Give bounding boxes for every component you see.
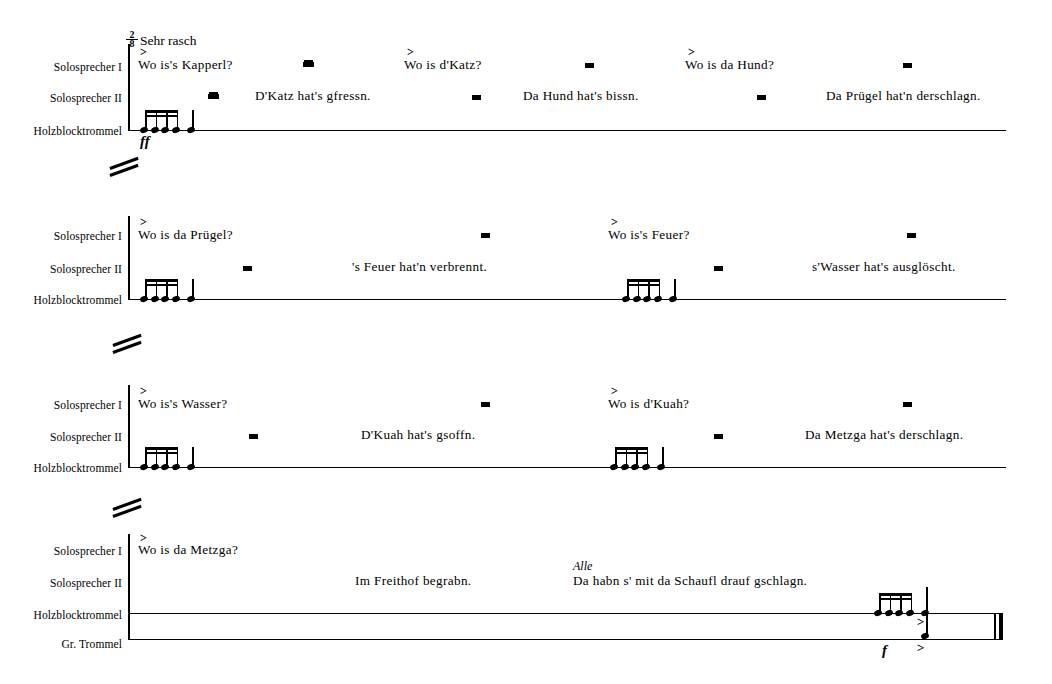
beam	[145, 447, 178, 450]
lyric-speaker2-2: Da habn s' mit da Schaufl drauf gschlagn…	[573, 574, 807, 587]
staff-line-woodblock	[128, 130, 1006, 131]
note-group-woodblock	[610, 447, 666, 477]
staff-label-holzblocktrommel: Holzblocktrommel	[34, 463, 122, 475]
lyric-speaker2-1: Im Freithof begrabn.	[355, 574, 472, 587]
final-barline-thin	[994, 613, 996, 640]
note-head	[186, 463, 195, 471]
staff-label-solosprecher-2: Solosprecher II	[50, 432, 122, 444]
beam	[145, 284, 178, 287]
note-head	[894, 609, 903, 617]
note-head	[150, 126, 159, 134]
staff-label-solosprecher-1: Solosprecher I	[54, 546, 122, 558]
lyric-speaker2-1: D'Katz hat's gfressn.	[255, 89, 371, 102]
system-barline	[128, 44, 130, 131]
rest-eighth	[907, 233, 916, 238]
lyric-speaker2-2: s'Wasser hat's ausglöscht.	[812, 260, 956, 273]
rest-quarter	[208, 94, 219, 99]
system-2: Solosprecher I Solosprecher II Holzblock…	[0, 172, 1052, 347]
rest-eighth	[714, 266, 723, 271]
rest-eighth	[585, 63, 594, 68]
staff-line-woodblock	[128, 613, 1003, 614]
lyric-speaker1-1: Wo is da Metzga?	[138, 543, 238, 556]
musical-score: Solosprecher I Solosprecher II Holzblock…	[0, 0, 1052, 684]
note-head	[139, 295, 148, 303]
staff-label-solosprecher-1: Solosprecher I	[54, 231, 122, 243]
note-head	[186, 126, 195, 134]
system-barline	[128, 534, 130, 639]
system-barline	[128, 216, 130, 300]
staff-label-solosprecher-2: Solosprecher II	[50, 578, 122, 590]
staff-label-holzblocktrommel: Holzblocktrommel	[34, 126, 122, 138]
beam	[879, 593, 912, 596]
lyric-speaker2-2: Da Metzga hat's derschlagn.	[805, 428, 963, 441]
note-head	[150, 463, 159, 471]
lyric-speaker2-1: 's Feuer hat'n verbrennt.	[352, 260, 487, 273]
beam	[627, 279, 660, 282]
note-head	[139, 463, 148, 471]
time-signature: 2 8	[126, 31, 138, 48]
lyric-speaker2-3: Da Prügel hat'n derschlagn.	[826, 89, 981, 102]
rest-eighth	[757, 95, 766, 100]
note-group-woodblock	[622, 279, 678, 309]
lyric-speaker1-2: Wo is d'Kuah?	[608, 397, 689, 410]
time-signature-denominator: 8	[126, 39, 138, 48]
staff-label-gr-trommel: Gr. Trommel	[61, 639, 122, 651]
rest-eighth	[243, 266, 252, 271]
note-head	[653, 295, 662, 303]
lyric-speaker1-2: Wo is's Feuer?	[608, 228, 690, 241]
lyric-speaker2-2: Da Hund hat's bissn.	[523, 89, 639, 102]
note-head	[632, 295, 641, 303]
rest-eighth	[481, 233, 490, 238]
system-4: Solosprecher I Solosprecher II Holzblock…	[0, 510, 1052, 684]
rest-eighth	[903, 402, 912, 407]
accent-icon: >	[917, 615, 924, 628]
note-head	[884, 609, 893, 617]
rest-eighth	[472, 95, 481, 100]
beam	[615, 452, 648, 455]
note-head	[609, 463, 618, 471]
accent-icon: >	[917, 641, 924, 654]
tempo-marking: Sehr rasch	[140, 33, 197, 49]
staff-label-holzblocktrommel: Holzblocktrommel	[34, 295, 122, 307]
beam	[145, 110, 178, 113]
note-head	[641, 463, 650, 471]
note-head	[160, 463, 169, 471]
staff-label-solosprecher-2: Solosprecher II	[50, 93, 122, 105]
beam	[879, 598, 912, 601]
staff-line-woodblock	[128, 299, 1006, 300]
staff-label-solosprecher-2: Solosprecher II	[50, 264, 122, 276]
note-head	[642, 295, 651, 303]
staff-label-holzblocktrommel: Holzblocktrommel	[34, 610, 122, 622]
rest-quarter	[303, 62, 314, 67]
final-barline-thick	[999, 613, 1003, 640]
system-3: Solosprecher I Solosprecher II Holzblock…	[0, 340, 1052, 515]
note-head	[620, 463, 629, 471]
note-head	[171, 463, 180, 471]
note-head	[656, 463, 665, 471]
lyric-speaker1-2: Wo is d'Katz?	[404, 58, 482, 71]
lyric-speaker1-1: Wo is da Prügel?	[138, 228, 233, 241]
note-head	[630, 463, 639, 471]
system-barline	[128, 385, 130, 468]
note-group-woodblock	[140, 447, 196, 477]
rest-eighth	[249, 434, 258, 439]
rest-eighth	[714, 434, 723, 439]
note-head	[621, 295, 630, 303]
beam	[145, 452, 178, 455]
dynamic-ff: ff	[140, 134, 150, 149]
staff-label-solosprecher-1: Solosprecher I	[54, 400, 122, 412]
rest-eighth	[903, 63, 912, 68]
dynamic-f: f	[882, 643, 887, 658]
note-head	[160, 126, 169, 134]
beam	[145, 279, 178, 282]
note-head	[160, 295, 169, 303]
note-group-woodblock	[140, 279, 196, 309]
staff-line-woodblock	[128, 467, 1006, 468]
lyric-speaker1-1: Wo is's Wasser?	[138, 397, 228, 410]
note-head	[186, 295, 195, 303]
note-head	[171, 126, 180, 134]
note-head	[668, 295, 677, 303]
beam	[145, 115, 178, 118]
lyric-speaker1-1: Wo is's Kapperl?	[138, 58, 233, 71]
note-head	[150, 295, 159, 303]
